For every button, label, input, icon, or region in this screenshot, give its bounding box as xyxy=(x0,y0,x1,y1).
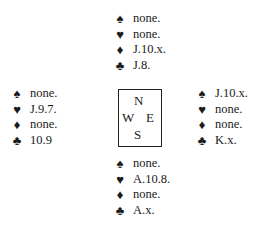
diamond-icon: ♦ xyxy=(195,117,209,133)
holding: A.x. xyxy=(133,203,155,219)
holding: J.10.x. xyxy=(215,86,248,102)
holding: none. xyxy=(133,156,160,172)
holding: none. xyxy=(133,11,160,27)
east-spades: ♠J.10.x. xyxy=(195,86,248,102)
west-hearts: ♥J.9.7. xyxy=(10,102,57,118)
holding: none. xyxy=(133,27,160,43)
spade-icon: ♠ xyxy=(113,156,127,172)
compass-east: E xyxy=(146,110,154,126)
south-clubs: ♣A.x. xyxy=(113,203,170,219)
heart-icon: ♥ xyxy=(113,27,127,43)
club-icon: ♣ xyxy=(10,133,24,149)
club-icon: ♣ xyxy=(113,58,127,74)
south-spades: ♠none. xyxy=(113,156,170,172)
spade-icon: ♠ xyxy=(195,86,209,102)
north-diamonds: ♦J.10.x. xyxy=(113,42,166,58)
spade-icon: ♠ xyxy=(10,86,24,102)
club-icon: ♣ xyxy=(113,203,127,219)
west-spades: ♠none. xyxy=(10,86,57,102)
east-diamonds: ♦none. xyxy=(195,117,248,133)
compass-west: W xyxy=(122,110,134,126)
west-diamonds: ♦none. xyxy=(10,117,57,133)
east-hearts: ♥none. xyxy=(195,102,248,118)
holding: none. xyxy=(215,117,242,133)
heart-icon: ♥ xyxy=(195,102,209,118)
holding: K.x. xyxy=(215,133,237,149)
west-clubs: ♣10.9 xyxy=(10,133,57,149)
compass-north: N xyxy=(134,93,143,109)
south-hearts: ♥A.10.8. xyxy=(113,172,170,188)
holding: none. xyxy=(133,187,160,203)
spade-icon: ♠ xyxy=(113,11,127,27)
holding: J.10.x. xyxy=(133,42,166,58)
heart-icon: ♥ xyxy=(10,102,24,118)
compass-south: S xyxy=(134,127,141,143)
north-clubs: ♣J.8. xyxy=(113,58,166,74)
south-diamonds: ♦none. xyxy=(113,187,170,203)
west-hand: ♠none. ♥J.9.7. ♦none. ♣10.9 xyxy=(10,86,57,148)
diamond-icon: ♦ xyxy=(113,187,127,203)
compass-box: N W E S xyxy=(118,89,162,147)
club-icon: ♣ xyxy=(195,133,209,149)
north-hearts: ♥none. xyxy=(113,27,166,43)
north-hand: ♠none. ♥none. ♦J.10.x. ♣J.8. xyxy=(113,11,166,73)
holding: none. xyxy=(30,86,57,102)
holding: 10.9 xyxy=(30,133,52,149)
east-clubs: ♣K.x. xyxy=(195,133,248,149)
holding: J.9.7. xyxy=(30,102,57,118)
holding: J.8. xyxy=(133,58,150,74)
east-hand: ♠J.10.x. ♥none. ♦none. ♣K.x. xyxy=(195,86,248,148)
diamond-icon: ♦ xyxy=(10,117,24,133)
south-hand: ♠none. ♥A.10.8. ♦none. ♣A.x. xyxy=(113,156,170,218)
holding: none. xyxy=(30,117,57,133)
holding: A.10.8. xyxy=(133,172,170,188)
diamond-icon: ♦ xyxy=(113,42,127,58)
holding: none. xyxy=(215,102,242,118)
heart-icon: ♥ xyxy=(113,172,127,188)
north-spades: ♠none. xyxy=(113,11,166,27)
